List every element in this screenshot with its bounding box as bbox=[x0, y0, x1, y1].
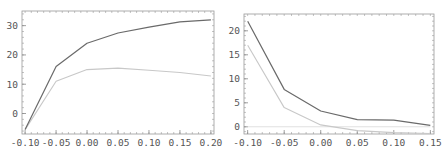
y-tick-label: 15 bbox=[229, 49, 240, 60]
series-line-dark bbox=[248, 21, 431, 125]
x-tick-label: -0.05 bbox=[42, 137, 71, 148]
x-tick-label: 0.20 bbox=[199, 137, 222, 148]
right-line-chart: -0.10-0.050.000.050.100.1505101520 bbox=[229, 14, 442, 148]
y-tick-label: 20 bbox=[7, 49, 19, 60]
left-line-chart: -0.10-0.050.000.050.100.150.200102030 bbox=[7, 11, 223, 148]
y-tick-label: 5 bbox=[234, 97, 240, 108]
x-tick-label: -0.10 bbox=[233, 137, 262, 148]
series-line-light bbox=[25, 68, 211, 130]
x-tick-label: 0.10 bbox=[138, 137, 161, 148]
y-tick-label: 20 bbox=[229, 25, 241, 36]
y-tick-label: 10 bbox=[7, 79, 19, 90]
x-tick-label: 0.10 bbox=[382, 137, 405, 148]
y-tick-label: 0 bbox=[234, 121, 240, 132]
x-tick-label: -0.10 bbox=[11, 137, 40, 148]
x-tick-label: 0.00 bbox=[76, 137, 99, 148]
x-tick-label: 0.00 bbox=[309, 137, 332, 148]
plot-frame bbox=[22, 11, 214, 134]
x-tick-label: 0.15 bbox=[168, 137, 191, 148]
x-tick-label: 0.15 bbox=[419, 137, 442, 148]
y-tick-label: 10 bbox=[229, 73, 241, 84]
y-tick-label: 0 bbox=[12, 108, 18, 119]
x-tick-label: -0.05 bbox=[270, 137, 299, 148]
x-tick-label: 0.05 bbox=[346, 137, 369, 148]
series-line-light bbox=[248, 45, 431, 133]
charts-canvas: -0.10-0.050.000.050.100.150.200102030 -0… bbox=[0, 0, 448, 154]
y-tick-label: 30 bbox=[7, 20, 19, 31]
plot-frame bbox=[244, 14, 434, 134]
x-tick-label: 0.05 bbox=[107, 137, 130, 148]
series-line-dark bbox=[25, 20, 211, 130]
